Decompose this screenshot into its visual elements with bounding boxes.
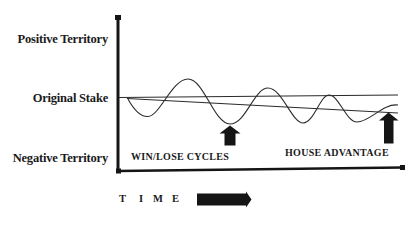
house-advantage-trend-line bbox=[127, 99, 398, 114]
time-letter-i: I bbox=[139, 194, 143, 205]
house-advantage-label: HOUSE ADVANTAGE bbox=[285, 148, 389, 158]
horizontal-axis-cap bbox=[400, 165, 405, 170]
house-advantage-arrow-icon bbox=[379, 113, 399, 144]
time-letter-t: T bbox=[119, 194, 126, 205]
horizontal-axis bbox=[118, 168, 402, 172]
time-letter-e: E bbox=[172, 194, 179, 205]
gambling-diagram: Positive Territory Original Stake Negati… bbox=[0, 0, 417, 237]
win-lose-arrow-icon bbox=[220, 126, 241, 146]
time-arrow-icon bbox=[197, 192, 252, 208]
win-lose-cycles-label: WIN/LOSE CYCLES bbox=[131, 152, 229, 162]
win-lose-cycle-curve bbox=[128, 79, 398, 124]
vertical-axis-cap bbox=[115, 15, 121, 20]
time-letter-m: M bbox=[153, 194, 163, 205]
original-stake-label: Original Stake bbox=[33, 92, 108, 105]
original-stake-line bbox=[119, 95, 398, 98]
positive-territory-label: Positive Territory bbox=[18, 33, 108, 46]
negative-territory-label: Negative Territory bbox=[13, 152, 108, 165]
origin-corner bbox=[116, 169, 121, 174]
